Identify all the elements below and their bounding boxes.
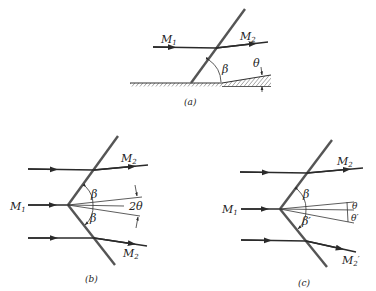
two-theta-tick-bottom <box>136 217 138 228</box>
fan-center <box>68 205 124 206</box>
wall-surface <box>130 75 271 87</box>
label-two-theta: 2θ <box>128 200 143 213</box>
label-beta-top: β <box>90 188 97 201</box>
label-theta: θ <box>253 57 260 70</box>
panel-a: M1 M2 β θ (a) <box>130 9 271 107</box>
angle-beta-arc <box>209 60 221 82</box>
panel-c: M1 M2 M2′ β β′ θ θ′ (c) <box>221 140 363 288</box>
label-m1: M1 <box>221 203 238 217</box>
ray-bottom-out-arrow <box>94 238 132 244</box>
panel-b: M1 M2 M2 β β 2θ (b) <box>9 136 148 284</box>
label-beta: β <box>221 63 228 76</box>
ray-top-out-arrow <box>307 169 347 173</box>
label-m1: M1 <box>9 200 26 214</box>
caption-c: (c) <box>298 278 311 288</box>
label-m2: M2 <box>239 30 256 44</box>
ray-top-out-arrow <box>94 167 132 171</box>
fan-upper <box>280 202 354 209</box>
caption-a: (a) <box>184 97 197 107</box>
ray-m2-arrow <box>216 44 253 48</box>
label-m1: M1 <box>160 33 177 47</box>
label-m2-top: M2 <box>336 155 353 169</box>
label-m2-bottom: M2 <box>122 247 139 261</box>
label-beta: β <box>302 188 309 201</box>
shock-wave-diagram: M1 M2 β θ (a) M1 M2 M2 <box>0 0 376 291</box>
theta-tick-top <box>261 67 262 75</box>
two-theta-tick-top <box>135 185 137 196</box>
label-m2-prime: M2′ <box>341 254 360 268</box>
theta-marker-line <box>347 202 348 222</box>
label-theta-prime: θ′ <box>351 213 358 223</box>
label-m2-top: M2 <box>120 152 137 166</box>
label-beta-prime: β′ <box>301 215 311 228</box>
label-theta: θ <box>352 201 358 211</box>
label-beta-bottom: β <box>89 212 96 225</box>
fan-center <box>280 209 354 210</box>
caption-b: (b) <box>85 274 98 284</box>
